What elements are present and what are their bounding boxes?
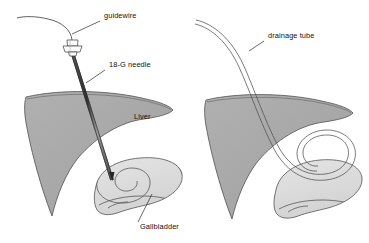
label-liver: Liver <box>134 112 151 121</box>
leader-guidewire <box>72 21 100 34</box>
medical-illustration-figure: guidewire 18-G needle Liver Gallbladder <box>0 0 369 243</box>
gallbladder-right <box>274 160 362 218</box>
label-guidewire: guidewire <box>104 11 137 20</box>
leader-needle <box>86 70 105 83</box>
label-18g-needle: 18-G needle <box>109 60 151 69</box>
label-drainage-tube: drainage tube <box>268 31 315 40</box>
illustration-canvas: guidewire 18-G needle Liver Gallbladder <box>0 0 369 243</box>
panel-left: guidewire 18-G needle Liver Gallbladder <box>17 11 182 231</box>
leader-drainage-tube <box>249 41 264 51</box>
needle-hub <box>63 40 82 56</box>
guidewire-path <box>17 17 72 40</box>
panel-right: drainage tube <box>195 20 362 219</box>
label-gallbladder: Gallbladder <box>140 222 179 231</box>
